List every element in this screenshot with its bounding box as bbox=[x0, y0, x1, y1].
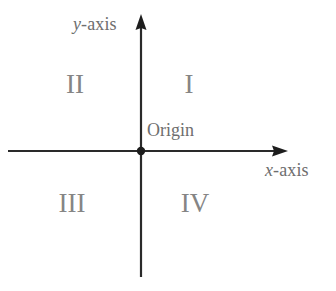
x-axis-arrowhead-icon bbox=[272, 146, 288, 157]
x-axis-label: x-axis bbox=[265, 161, 309, 179]
y-axis-label: y-axis bbox=[73, 15, 117, 33]
x-axis-label-suffix: -axis bbox=[273, 160, 309, 180]
quadrant-label-4: IV bbox=[168, 190, 222, 217]
quadrant-label-3: III bbox=[42, 190, 102, 217]
quadrant-label-1: I bbox=[168, 71, 210, 98]
axes-group bbox=[0, 0, 336, 291]
origin-label: Origin bbox=[147, 121, 194, 139]
y-axis-variable: y bbox=[73, 14, 81, 34]
y-axis-label-suffix: -axis bbox=[81, 14, 117, 34]
coordinate-plane-diagram: y-axis x-axis Origin I II III IV bbox=[0, 0, 336, 291]
quadrant-label-2: II bbox=[54, 71, 96, 98]
y-axis-arrowhead-icon bbox=[136, 14, 147, 30]
x-axis-variable: x bbox=[265, 160, 273, 180]
origin-point-icon bbox=[137, 147, 145, 155]
